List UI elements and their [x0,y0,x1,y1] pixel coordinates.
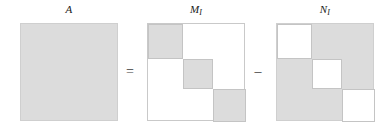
matrix-decomposition-figure: AMINI=– [0,0,390,131]
matrix-group-m-i: MI [147,0,245,131]
matrix-block-3 [342,89,375,122]
matrix-block-1 [148,24,183,59]
matrix-group-a: A [20,0,118,131]
matrix-box-m-i [147,23,245,121]
matrix-label-a: A [20,2,118,16]
matrix-label-n-i: NI [276,2,374,18]
matrix-label-main: M [190,3,199,15]
matrix-block-1 [277,24,312,59]
matrix-label-main: A [66,3,73,15]
matrix-group-n-i: NI [276,0,374,131]
matrix-label-subscript: I [199,8,202,17]
matrix-block-2 [183,59,213,89]
matrix-box-n-i [276,23,374,121]
matrix-label-subscript: I [327,8,330,17]
matrix-label-m-i: MI [147,2,245,18]
operator-equals: = [119,63,141,81]
matrix-box-a [20,23,118,121]
operator-minus: – [247,63,269,81]
matrix-block-2 [312,59,342,89]
matrix-block-3 [213,89,246,122]
